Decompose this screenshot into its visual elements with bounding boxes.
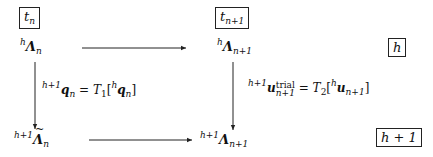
node-symbol: Λ (26, 39, 36, 54)
level-text: h (393, 40, 401, 55)
node-bottom-right: h+1Λn+1 (200, 131, 248, 149)
node-symbol: Λ (219, 132, 229, 147)
var-sub: n (126, 89, 132, 99)
var-sub: n+1 (346, 87, 365, 97)
pre-sup: h+1 (248, 78, 267, 88)
pre-sup: h+1 (200, 130, 219, 140)
operator-sub: 2 (321, 87, 327, 97)
node-symbol-tilde: Λ (33, 133, 43, 146)
time-label-tn: tn (19, 7, 40, 29)
pre-sup: h+1 (14, 130, 33, 140)
sup-sub-stack: trialn+1 (276, 82, 295, 97)
node-symbol: Λ (223, 39, 233, 54)
var-sub: n+1 (276, 90, 295, 98)
pre-sup: h+1 (42, 80, 61, 90)
node-top-right: hΛn+1 (217, 38, 252, 56)
node-bottom-left: h+1Λn (14, 131, 49, 149)
var-sub: n (69, 89, 75, 99)
node-sub: n+1 (229, 139, 248, 149)
equals: = (79, 83, 89, 97)
operator-T: T (93, 83, 101, 97)
var-u: u (337, 81, 346, 95)
time-sub: n (29, 16, 35, 26)
time-sub: n+1 (225, 16, 244, 26)
time-label-tn1: tn+1 (215, 7, 249, 29)
operator-T: T (313, 81, 321, 95)
var-q: q (117, 83, 125, 97)
equals: = (299, 81, 309, 95)
edge-label-right: h+1utrialn+1 = T2[hun+1] (248, 79, 369, 98)
operator-sub: 1 (101, 89, 107, 99)
var-u: u (267, 81, 276, 95)
node-sub: n (36, 46, 42, 56)
edge-label-left: h+1qn = T1[hqn] (42, 81, 136, 99)
node-sub: n (43, 139, 49, 149)
node-sub: n+1 (233, 46, 252, 56)
node-top-left: hΛn (20, 38, 42, 56)
level-label-h: h (388, 38, 406, 57)
level-label-h1: h + 1 (376, 128, 422, 147)
level-text: h + 1 (381, 130, 417, 145)
